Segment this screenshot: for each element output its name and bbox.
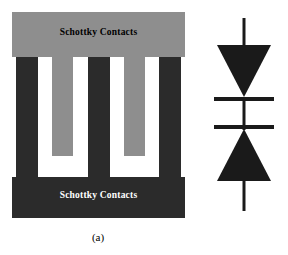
figure-panel-a: Schottky Contacts Schottky Contacts (a) (0, 0, 200, 255)
interdigitated-device-diagram: Schottky Contacts Schottky Contacts (12, 12, 185, 218)
figure-panel-b: (b) (200, 0, 288, 255)
contact-finger-dark-2 (88, 57, 110, 177)
back-to-back-diode-symbol (200, 0, 288, 225)
top-diode-triangle-icon (217, 45, 271, 97)
contact-finger-gray-2 (124, 56, 145, 156)
bottom-diode-triangle-icon (217, 129, 271, 181)
top-schottky-contact-label: Schottky Contacts (12, 27, 185, 37)
top-schottky-contact-pad: Schottky Contacts (12, 12, 185, 57)
contact-finger-dark-1 (16, 57, 38, 177)
panel-a-caption: (a) (0, 231, 196, 243)
bottom-schottky-contact-label: Schottky Contacts (12, 190, 185, 200)
contact-finger-dark-3 (159, 57, 181, 177)
contact-finger-gray-1 (52, 56, 73, 156)
bottom-schottky-contact-pad: Schottky Contacts (12, 177, 185, 218)
interdigitated-finger-area (12, 57, 185, 177)
